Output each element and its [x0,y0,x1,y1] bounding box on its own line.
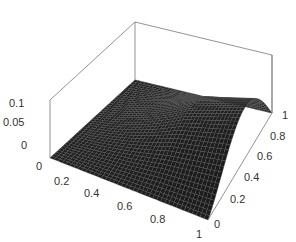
x-axis-tick-label: 1 [196,229,202,240]
y-axis-tick-label: 0.6 [257,151,272,162]
x-axis-tick-label: 0 [36,161,42,172]
y-axis-tick-label: 0.4 [244,172,259,183]
y-axis-tick-label: 1 [282,110,288,121]
y-axis-tick-label: 0.8 [270,131,285,142]
y-axis-tick-label: 0.2 [230,194,245,205]
x-axis-tick-label: 0.4 [84,188,99,199]
surface-plot [0,0,296,242]
z-axis-tick-label: 0 [21,140,27,151]
z-axis-tick-label: 0.05 [3,117,24,128]
x-axis-tick-label: 0.8 [150,214,165,225]
z-axis-tick-label: 0.1 [9,98,24,109]
y-axis-tick-label: 0 [214,219,220,230]
x-axis-tick-label: 0.2 [54,176,69,187]
x-axis-tick-label: 0.6 [117,201,132,212]
